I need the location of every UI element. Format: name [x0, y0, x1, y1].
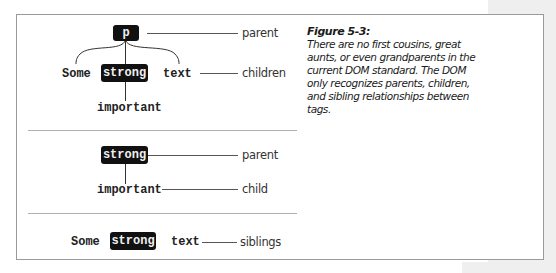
figure-title: Figure 5-3: [307, 25, 487, 38]
parent-child-connector [125, 162, 126, 184]
tree-parent-leader-line [147, 33, 238, 34]
sibling-some: Some [71, 235, 100, 249]
tree-grandchild-important: important [97, 101, 162, 115]
tree-root-tag-p: p [113, 25, 139, 41]
tree-children-leader-line [200, 73, 238, 74]
tree-child-text: text [163, 67, 192, 81]
section-divider-1 [28, 130, 297, 131]
sibling-text: text [171, 235, 200, 249]
tree-children-label: children [242, 66, 286, 80]
child-important: important [97, 183, 162, 197]
figure-caption: Figure 5-3: There are no first cousins, … [307, 25, 487, 116]
figure-caption-text: There are no first cousins, great aunts,… [307, 38, 475, 115]
tree-child-strong-tag: strong [101, 64, 148, 82]
parent-leader-line [148, 155, 238, 156]
tree-child-some: Some [62, 67, 91, 81]
parent-label: parent [242, 148, 278, 162]
sibling-strong-tag: strong [110, 232, 156, 250]
section-divider-2 [28, 213, 297, 214]
siblings-label: siblings [240, 235, 281, 249]
tree-parent-label: parent [242, 26, 278, 40]
child-leader-line [162, 189, 238, 190]
parent-strong-tag: strong [101, 146, 148, 164]
child-label: child [242, 182, 268, 196]
siblings-leader-line [202, 242, 237, 243]
